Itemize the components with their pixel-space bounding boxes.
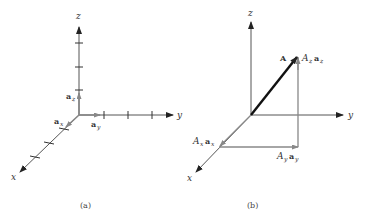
y-axis-label-b: y <box>347 110 354 120</box>
svg-text:z: z <box>319 57 324 64</box>
svg-text:a: a <box>289 151 294 161</box>
svg-text:a: a <box>314 53 319 63</box>
svg-text:A: A <box>301 53 309 63</box>
svg-text:a: a <box>91 119 96 129</box>
svg-text:x: x <box>60 120 64 127</box>
vector-A <box>251 57 297 115</box>
caption-a: (a) <box>80 201 91 210</box>
panel-a: z y x a z a y a x (a) <box>11 11 183 210</box>
svg-text:a: a <box>205 136 210 146</box>
svg-text:y: y <box>96 123 101 131</box>
svg-text:y: y <box>283 155 288 163</box>
component-ax <box>220 115 251 146</box>
svg-text:y: y <box>294 155 299 163</box>
label-az: a z <box>66 91 76 102</box>
z-axis-label-a: z <box>75 11 81 21</box>
vector-diagram: z y x a z a y a x (a) <box>0 0 365 218</box>
svg-text:a: a <box>54 116 59 126</box>
caption-b: (b) <box>247 201 258 210</box>
label-ay: a y <box>91 119 101 131</box>
x-axis-label-b: x <box>187 173 192 183</box>
z-axis-label-b: z <box>247 8 253 18</box>
svg-text:x: x <box>200 140 204 147</box>
svg-text:x: x <box>211 140 215 147</box>
svg-text:A: A <box>192 136 200 146</box>
panel-b: z y x A A z a z A x a x A y a <box>187 8 354 210</box>
label-Az-az: A z a z <box>301 53 324 64</box>
x-axis-label-a: x <box>11 172 16 182</box>
label-Ay-ay: A y a y <box>276 151 299 163</box>
vector-A-label: A <box>279 53 287 63</box>
svg-text:z: z <box>71 95 76 102</box>
unit-vector-ax <box>66 115 79 127</box>
label-Ax-ax: A x a x <box>192 136 215 147</box>
svg-text:z: z <box>308 57 313 64</box>
y-axis-label-a: y <box>176 110 183 120</box>
label-ax: a x <box>54 116 64 127</box>
svg-text:A: A <box>276 151 284 161</box>
svg-text:a: a <box>66 91 71 101</box>
